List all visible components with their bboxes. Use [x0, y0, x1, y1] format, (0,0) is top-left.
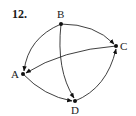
edge-d-to-c	[75, 49, 116, 101]
node-a	[21, 72, 25, 76]
label-d: D	[71, 104, 79, 116]
label-c: C	[120, 40, 127, 52]
node-d	[73, 99, 77, 103]
node-c	[114, 44, 118, 48]
label-b: B	[57, 8, 64, 20]
edge-c-to-a	[26, 46, 116, 73]
edge-b-to-d	[60, 24, 74, 98]
directed-graph: B C A D	[0, 0, 136, 116]
label-a: A	[11, 68, 19, 80]
node-b	[59, 22, 63, 26]
edge-b-to-c	[61, 24, 114, 44]
